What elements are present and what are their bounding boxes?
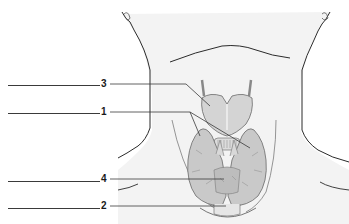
label-number-3: 3 [101, 79, 107, 89]
answer-blank-3[interactable] [8, 85, 100, 86]
label-number-2: 2 [101, 201, 107, 211]
label-number-4: 4 [101, 174, 107, 184]
thyroid-diagram: 3 1 4 2 [0, 0, 349, 224]
answer-blank-2[interactable] [8, 208, 100, 209]
answer-blank-1[interactable] [8, 113, 100, 114]
label-number-1: 1 [101, 107, 107, 117]
thyroid-isthmus [214, 167, 240, 194]
neck-illustration [0, 0, 349, 224]
answer-blank-4[interactable] [8, 181, 100, 182]
